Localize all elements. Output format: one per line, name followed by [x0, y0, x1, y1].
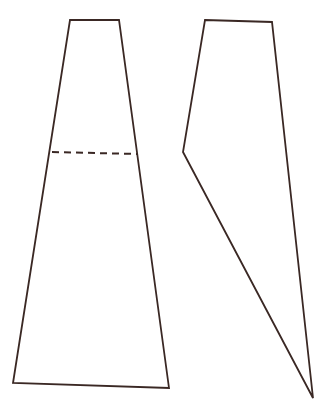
notched-tapered-panel: [183, 20, 313, 398]
figures-svg: [0, 0, 333, 410]
left-figure-group: [13, 20, 169, 388]
tapered-trapezoid-panel: [13, 20, 169, 388]
figure-canvas: [0, 0, 333, 410]
right-figure-group: [183, 20, 313, 398]
